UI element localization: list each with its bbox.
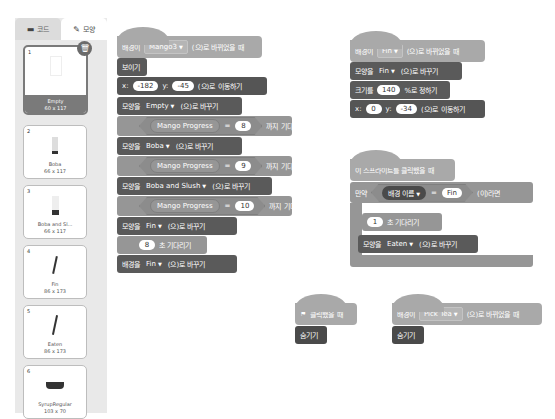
x-input[interactable]: 0 [366,104,382,114]
costume-dropdown[interactable]: Fin▼ [377,67,397,75]
when-sprite-clicked-hat[interactable]: 이 스프라이트를 클릭했을 때 [350,159,455,181]
switch-backdrop-block[interactable]: 배경을 Fin▼ (으)로 바꾸기 [117,255,237,273]
switch-costume-block[interactable]: 모양을 Empty▼ (으)로 바꾸기 [117,97,242,115]
delete-costume-button[interactable]: 🗑 [77,41,92,56]
size-input[interactable]: 140 [377,85,400,95]
costume-item-boba-and-slush[interactable]: 3 Boba and Sl... 66 x 117 [23,185,87,239]
switch-costume-block[interactable]: 모양을 Boba and Slush▼ (으)로 바꾸기 [117,177,272,195]
set-size-block[interactable]: 크기를 140 %로 정하기 [350,81,450,99]
costume-thumbnail [24,134,86,156]
costume-item-eaten[interactable]: 5 Eaten 86 x 173 [23,305,87,359]
tab-costumes[interactable]: ✎ 모양 [61,18,107,40]
seconds-input[interactable]: 8 [139,240,155,250]
wait-until-block[interactable]: Mango Progress = 10 까지 기다리기 [117,196,292,216]
equals-operator[interactable]: Mango Progress = 9 [139,157,262,175]
tab-code[interactable]: ▬ 코드 [15,18,61,40]
costume-thumbnail [24,374,86,396]
equals-operator[interactable]: Mango Progress = 10 [139,197,265,215]
goto-xy-block[interactable]: x: -182 y: -45 (으)로 이동하기 [117,77,267,95]
costume-item-fin[interactable]: 4 Fin 86 x 173 [23,245,87,299]
wait-until-block[interactable]: Mango Progress = 8 까지 기다리기 [117,116,292,136]
when-backdrop-switches-hat[interactable]: 배경이 Mango3▼ (으)로 바뀌었을 때 [117,36,262,58]
y-input[interactable]: -45 [172,81,193,91]
if-block[interactable]: 만약 배경 이름▼ = Fin (이)라면 [350,182,533,203]
switch-costume-block[interactable]: 모양을 Fin▼ (으)로 바꾸기 [117,217,237,235]
when-backdrop-switches-hat[interactable]: 배경이 Fin▼ (으)로 바뀌었을 때 [350,40,485,62]
hide-block[interactable]: 숨기기 [295,326,327,344]
costume-thumbnail [24,194,86,216]
hide-block[interactable]: 숨기기 [392,326,424,344]
equals-operator[interactable]: 배경 이름▼ = Fin [371,184,473,202]
costume-dropdown[interactable]: Boba▼ [144,142,172,150]
backdrop-dropdown[interactable]: Mango3▼ [144,40,188,54]
backdrop-reporter[interactable]: 배경 이름▼ [382,186,426,200]
when-flag-clicked-hat[interactable]: ⚑ 클릭했을 때 [295,303,357,325]
costume-thumbnail [25,55,86,77]
costume-dropdown[interactable]: Eaten▼ [385,240,415,248]
costume-dropdown[interactable]: Fin▼ [144,222,164,230]
costume-item-syrupregular[interactable]: 6 SyrupRegular 103 x 70 [23,365,87,419]
costume-thumbnail [24,254,86,276]
green-flag-icon: ⚑ [300,310,306,318]
when-backdrop-switches-hat[interactable]: 배경이 Pick Tea▼ (으)로 바뀌었을 때 [392,303,542,325]
x-input[interactable]: -182 [133,81,159,91]
costume-dropdown[interactable]: Boba and Slush▼ [144,182,208,190]
y-input[interactable]: -34 [396,104,417,114]
costume-item-empty[interactable]: 1 Empty 60 x 117 🗑 [23,45,88,115]
backdrop-dropdown[interactable]: Fin▼ [377,44,403,58]
variable-reporter[interactable]: Mango Progress [150,119,220,133]
switch-costume-block[interactable]: 모양을 Boba▼ (으)로 바꾸기 [117,137,242,155]
goto-xy-block[interactable]: x: 0 y: -34 (으)로 이동하기 [350,100,485,118]
costume-item-boba[interactable]: 2 Boba 66 x 117 [23,125,87,179]
costume-dropdown[interactable]: Empty▼ [144,102,176,110]
show-block[interactable]: 보이기 [117,58,147,76]
switch-costume-block[interactable]: 모양을 Eaten▼ (으)로 바꾸기 [358,235,478,253]
editor-tabs: ▬ 코드 ✎ 모양 [15,18,107,40]
brush-icon: ✎ [73,25,80,34]
wait-seconds-block[interactable]: 1 초 기다리기 [362,213,442,231]
wait-seconds-block[interactable]: 8 초 기다리기 [117,236,207,254]
variable-reporter[interactable]: Mango Progress [150,199,220,213]
equals-operator[interactable]: Mango Progress = 8 [139,117,262,135]
switch-costume-block[interactable]: 모양을 Fin▼ (으)로 바꾸기 [350,62,462,80]
seconds-input[interactable]: 1 [367,217,383,227]
if-block-bottom [350,255,533,267]
backdrop-dropdown[interactable]: Pick Tea▼ [419,307,463,321]
costume-thumbnail [24,314,86,336]
code-icon: ▬ [27,25,35,34]
backdrop-dropdown[interactable]: Fin▼ [144,260,164,268]
variable-reporter[interactable]: Mango Progress [150,159,220,173]
trash-icon: 🗑 [80,44,90,53]
wait-until-block[interactable]: Mango Progress = 9 까지 기다리기 [117,156,292,176]
